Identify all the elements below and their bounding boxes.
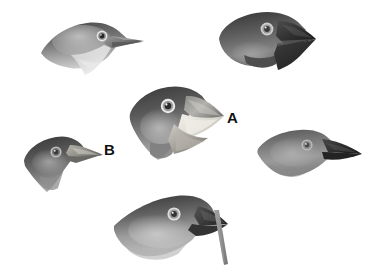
specimen-top-left-finch (38, 14, 148, 76)
finch-figure: A B (0, 0, 380, 275)
label-a: A (227, 110, 238, 125)
beak-shape (66, 145, 103, 163)
beak-shape (322, 139, 362, 160)
eye (50, 146, 61, 157)
eye (261, 23, 274, 36)
beak-shape (274, 21, 316, 70)
specimen-right-middle-finch-warbler (256, 126, 366, 182)
specimen-left-middle-finch-pointed-beak (22, 132, 106, 194)
label-b: B (104, 142, 115, 157)
head-shape (24, 136, 86, 192)
eye (301, 139, 312, 150)
specimen-bottom-finch-with-tool (112, 192, 240, 274)
head-shape (41, 23, 130, 75)
specimen-top-right-finch (216, 8, 328, 80)
eye (161, 99, 175, 113)
specimen-center-finch-large-beak-open (128, 84, 236, 164)
eye (97, 31, 108, 42)
eye (167, 207, 180, 220)
